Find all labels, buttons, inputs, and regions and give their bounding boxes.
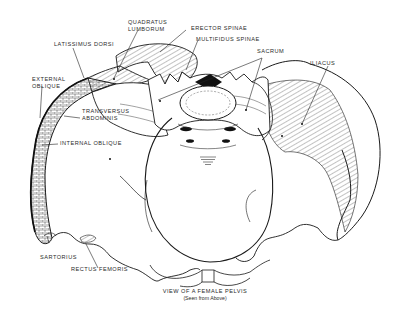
label-quadratus-lumborum-1: QUADRATUS [128, 19, 167, 26]
label-erector-spinae: ERECTOR SPINAE [191, 25, 247, 32]
label-quadratus-lumborum-2: LUMBORUM [128, 26, 165, 33]
diagram-subcaption: (Seen from Above) [160, 295, 250, 301]
label-transversus-abdominis-2: ABDOMINIS [82, 115, 118, 122]
label-iliacus: ILIACUS [310, 60, 335, 67]
diagram-caption: VIEW OF A FEMALE PELVIS [160, 288, 250, 295]
label-latissimus-dorsi: LATISSIMUS DORSI [54, 41, 114, 48]
label-transversus-abdominis-1: TRANSVERSUS [82, 108, 129, 115]
label-external-oblique-1: EXTERNAL [32, 76, 66, 83]
pubic-symphysis [150, 260, 270, 287]
label-sacrum: SACRUM [257, 48, 284, 55]
label-rectus-femoris: RECTUS FEMORIS [71, 266, 128, 273]
pelvic-inlet [120, 118, 273, 262]
label-multifidus-spinae: MULTIFIDUS SPINAE [196, 36, 260, 43]
label-internal-oblique: INTERNAL OBLIQUE [60, 140, 122, 147]
pelvis-diagram [0, 0, 398, 320]
label-sartorius: SARTORIUS [40, 254, 77, 261]
label-external-oblique-2: OBLIQUE [32, 83, 60, 90]
